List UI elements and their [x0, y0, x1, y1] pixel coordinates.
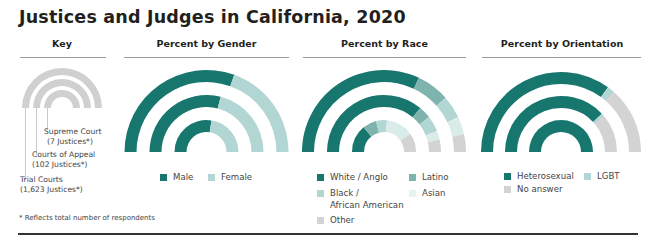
arc-segment	[210, 120, 239, 152]
orientation-chart	[481, 72, 641, 152]
race-chart	[302, 70, 466, 152]
black-swatch	[317, 190, 324, 197]
legend-asian: Asian	[409, 187, 445, 199]
gender-chart	[125, 70, 289, 152]
female-swatch	[208, 174, 215, 181]
arc-segment	[414, 78, 446, 106]
arc-segment	[175, 120, 212, 152]
arc-segment	[452, 134, 466, 152]
lgbt-swatch	[584, 173, 591, 180]
heterosexual-swatch	[504, 173, 511, 180]
legend-other: Other	[317, 214, 354, 226]
legend-black: Black / African American	[317, 187, 404, 211]
key-ring	[44, 90, 80, 108]
legend-no-answer: No answer	[504, 183, 562, 195]
legend-heterosexual: Heterosexual	[504, 170, 574, 182]
no-answer-swatch	[504, 186, 511, 193]
legend-lgbt: LGBT	[584, 170, 620, 182]
arc-segment	[529, 120, 593, 152]
legend-latino: Latino	[409, 171, 449, 183]
white-swatch	[317, 174, 324, 181]
legend-female: Female	[208, 171, 252, 183]
legend-male: Male	[160, 171, 193, 183]
bottom-rule	[18, 233, 638, 235]
arc-segment	[218, 97, 264, 152]
latino-swatch	[409, 174, 416, 181]
arc-segment	[595, 116, 617, 152]
key-trial-label: Trial Courts (1,623 Justices*)	[20, 175, 83, 195]
legend-white: White / Anglo	[317, 171, 388, 183]
footnote: * Reflects total number of respondents	[19, 214, 155, 222]
key-supreme-label: Supreme Court (7 Justices*)	[44, 127, 101, 147]
key-appeal-label: Courts of Appeal (102 Justices*)	[32, 150, 95, 170]
male-swatch	[160, 174, 167, 181]
other-swatch	[317, 217, 324, 224]
asian-swatch	[409, 190, 416, 197]
